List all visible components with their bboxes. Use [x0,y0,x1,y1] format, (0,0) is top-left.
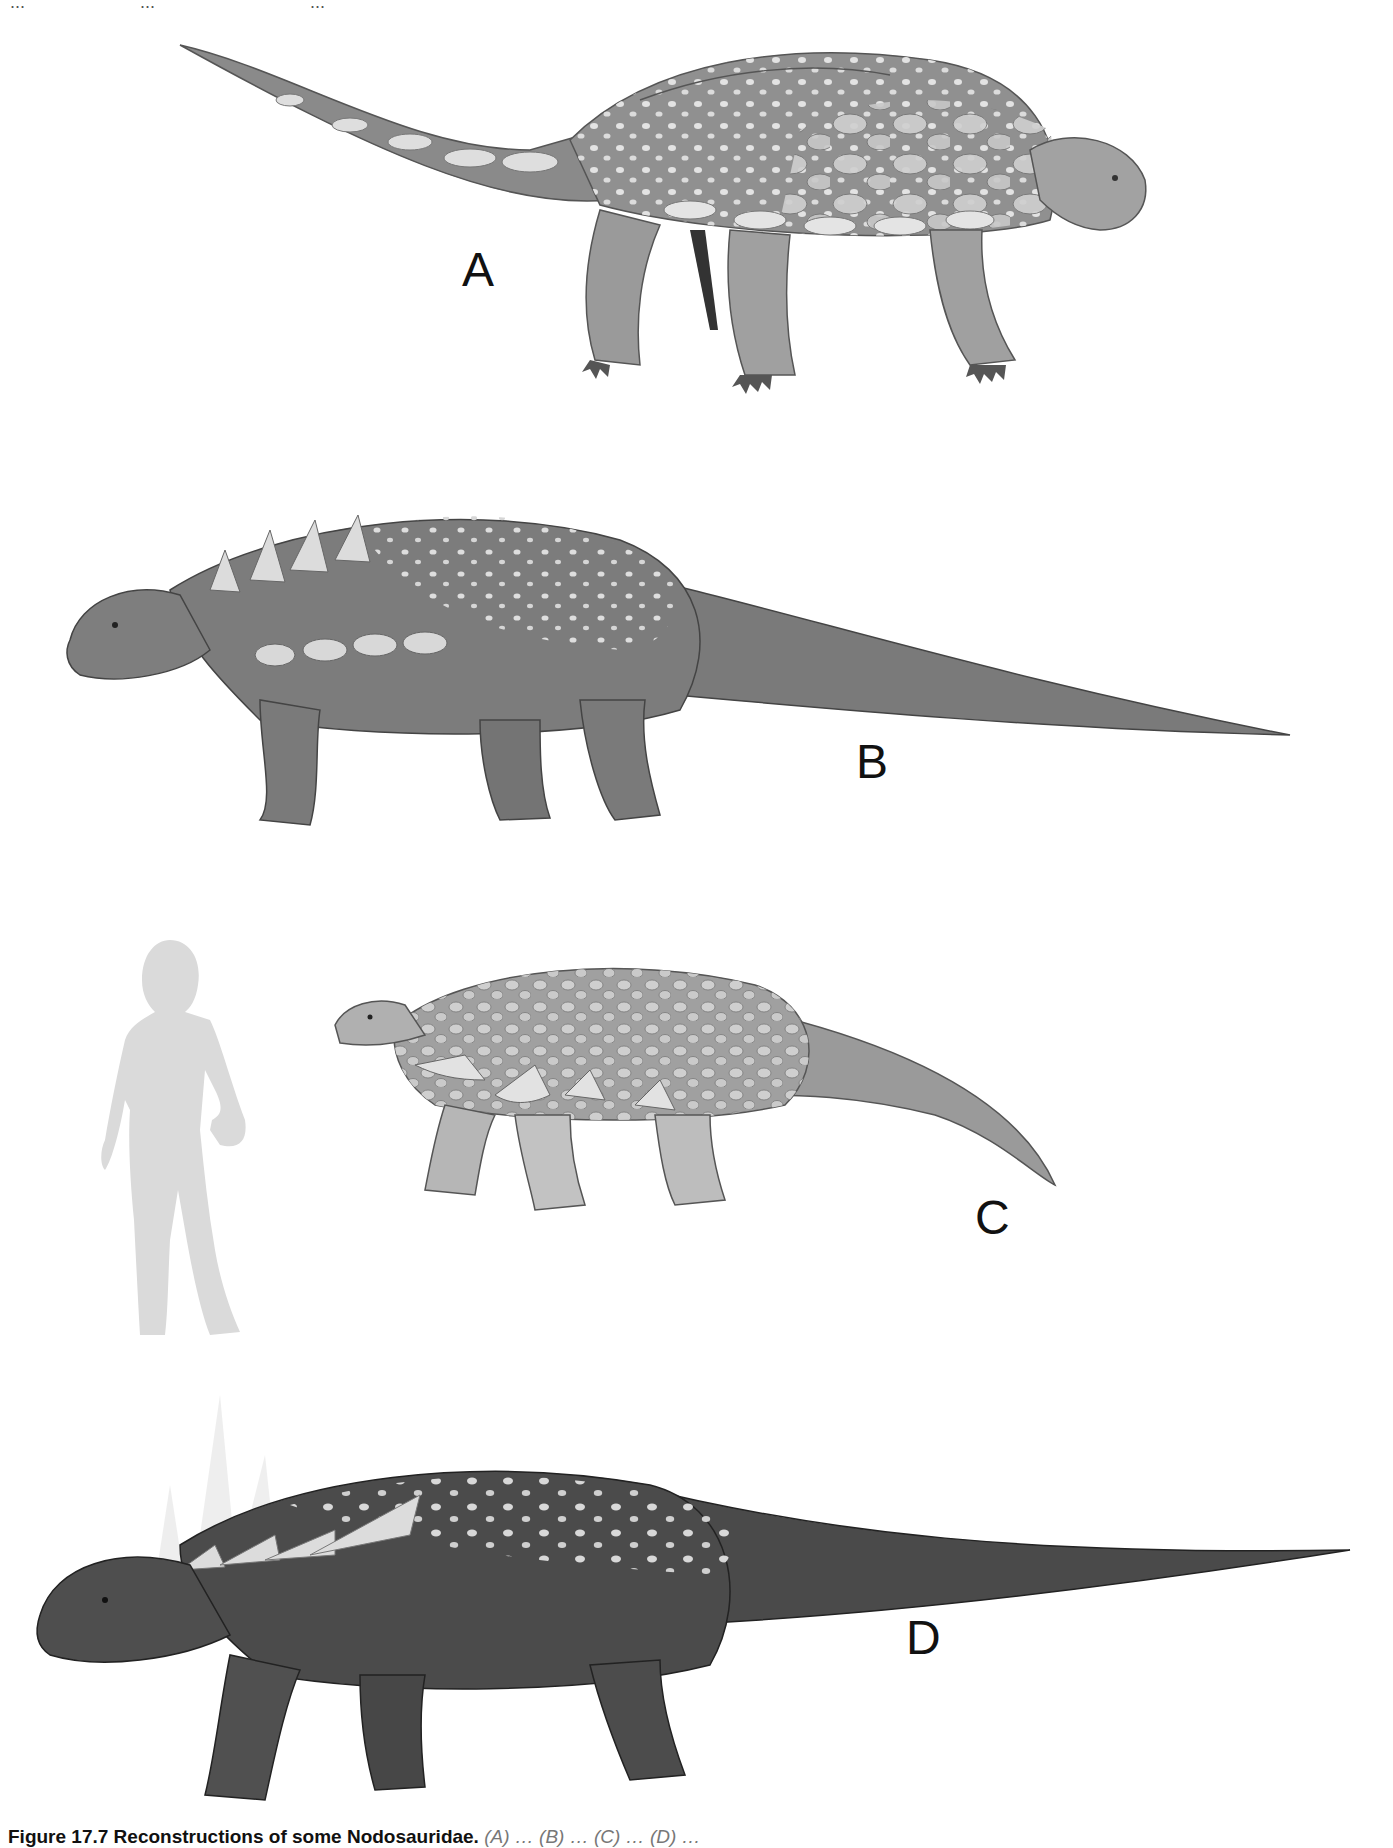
panel-label-d: D [906,1614,941,1662]
header-chapter-title: ... [310,0,325,13]
human-silhouette-icon [100,940,260,1340]
panel-d-illustration [30,1395,1370,1815]
figure-title: Reconstructions of some Nodosauridae. [114,1826,479,1847]
panel-c-illustration [335,955,1235,1235]
panel-label-c: C [975,1194,1010,1242]
dinosaur-d-icon [30,1395,1370,1815]
dinosaur-b-icon [60,500,1320,840]
figure-caption: Figure 17.7 Reconstructions of some Nodo… [8,1826,1388,1848]
panel-label-a: A [462,246,494,294]
dinosaur-c-icon [335,955,1235,1235]
figure-number: Figure 17.7 [8,1826,108,1847]
header-part-title: ... [140,0,155,13]
panel-b-illustration [60,500,1320,840]
panel-label-b: B [856,738,888,786]
figure-caption-body: (A) … (B) … (C) … (D) … [484,1826,700,1847]
header-page-number: ... [10,0,25,13]
human-scale-silhouette [100,940,260,1344]
dinosaur-a-icon [170,30,1270,390]
running-header: ... ... ... [0,0,1393,6]
panel-a-illustration [170,30,1270,390]
